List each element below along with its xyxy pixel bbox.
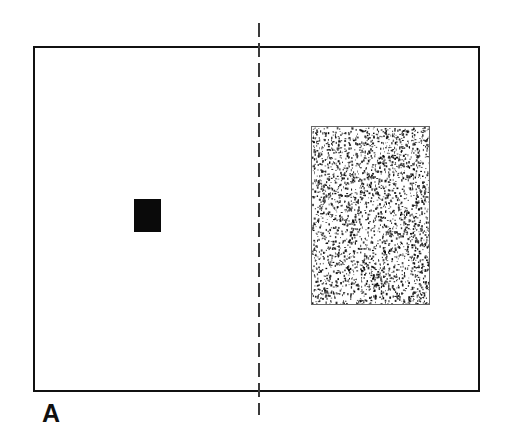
vertical-dashed-midline [258,23,260,415]
panel-label: A [42,401,60,426]
stipple-texture [312,127,429,304]
stippled-rectangle [311,126,430,305]
solid-black-square [134,199,161,232]
figure-canvas: A [0,0,509,448]
